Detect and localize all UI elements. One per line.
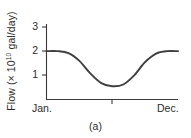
figure-caption: (a)	[0, 120, 191, 132]
flow-curve	[47, 51, 179, 86]
x-tick-label-dec: Dec.	[157, 102, 179, 114]
axes	[47, 24, 179, 100]
figure-container: Flow (× 1010 gal/day) 3 2 1 Jan. Dec. (a…	[0, 0, 191, 138]
plot-area	[0, 0, 191, 138]
x-tick-label-jan: Jan.	[32, 102, 52, 114]
